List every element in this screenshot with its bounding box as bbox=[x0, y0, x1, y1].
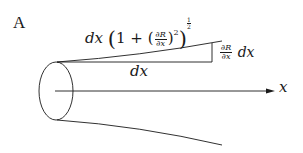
one-plus: 1 + ( bbox=[116, 29, 154, 47]
lower-profile-curve bbox=[57, 120, 222, 145]
rise-label: ∂R∂x dx bbox=[219, 44, 254, 61]
panel-label: A bbox=[13, 14, 25, 31]
axis-label: x bbox=[279, 80, 287, 95]
partial-fraction: ∂R∂x bbox=[155, 31, 167, 48]
rise-fraction: ∂R∂x bbox=[220, 44, 232, 61]
open-paren: ( bbox=[108, 27, 116, 51]
half-exponent: 12 bbox=[187, 17, 191, 30]
arc-length-label: dx (1 + (∂R∂x)2)12 bbox=[85, 17, 191, 50]
rise-suffix: dx bbox=[238, 44, 255, 60]
x-axis-arrowhead bbox=[266, 89, 275, 94]
arc-prefix: dx bbox=[85, 29, 103, 47]
run-label: dx bbox=[130, 64, 148, 79]
close-paren: ) bbox=[179, 27, 187, 51]
